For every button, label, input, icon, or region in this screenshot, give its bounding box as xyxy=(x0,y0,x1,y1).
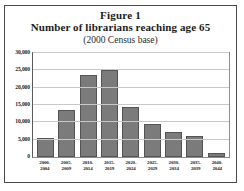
gridline xyxy=(33,87,229,88)
y-axis-tick-label: 20,000 xyxy=(15,84,30,90)
x-axis-tick-label: 2015-2019 xyxy=(99,160,119,182)
x-axis-tick-label: 2000-2004 xyxy=(35,160,55,182)
y-axis-tick-label: 25,000 xyxy=(15,66,30,72)
bar xyxy=(37,138,54,157)
x-axis: 2000-20042005-20092010-20142015-20192020… xyxy=(32,160,230,182)
gridline xyxy=(33,52,229,53)
x-axis-tick-line: 2039 xyxy=(186,166,206,172)
bar xyxy=(165,132,182,157)
x-axis-tick-label: 2020-2024 xyxy=(121,160,141,182)
x-axis-tick-label: 2040-2044 xyxy=(207,160,227,182)
y-axis-tick-label: 0 xyxy=(27,153,30,159)
gridline xyxy=(33,104,229,105)
x-axis-tick-label: 2030-2034 xyxy=(164,160,184,182)
plot-area xyxy=(32,52,230,158)
gridline xyxy=(33,69,229,70)
figure-frame: Figure 1 Number of librarians reaching a… xyxy=(4,5,237,183)
y-axis-tick-label: 15,000 xyxy=(15,101,30,107)
x-axis-tick-label: 2025-2029 xyxy=(143,160,163,182)
gridline xyxy=(33,139,229,140)
y-axis: 05,00010,00015,00020,00025,00030,000 xyxy=(5,52,31,158)
gridline xyxy=(33,121,229,122)
x-axis-tick-label: 2005-2009 xyxy=(56,160,76,182)
bar xyxy=(144,124,161,157)
y-axis-tick-label: 30,000 xyxy=(15,49,30,55)
x-axis-tick-line: 2014 xyxy=(78,166,98,172)
x-axis-tick-line: 2024 xyxy=(121,166,141,172)
x-axis-tick-line: 2009 xyxy=(56,166,76,172)
x-axis-tick-line: 2034 xyxy=(164,166,184,172)
x-axis-tick-label: 2035-2039 xyxy=(186,160,206,182)
figure-title: Number of librarians reaching age 65 xyxy=(5,21,236,34)
bar-chart: 05,00010,00015,00020,00025,00030,000 200… xyxy=(5,52,238,183)
x-axis-tick-line: 2019 xyxy=(99,166,119,172)
y-axis-tick-label: 5,000 xyxy=(18,136,30,142)
y-axis-tick-label: 10,000 xyxy=(15,118,30,124)
x-axis-tick-label: 2010-2014 xyxy=(78,160,98,182)
x-axis-tick-line: 2004 xyxy=(35,166,55,172)
x-axis-tick-line: 2044 xyxy=(207,166,227,172)
figure-number: Figure 1 xyxy=(5,9,236,21)
figure-title-block: Figure 1 Number of librarians reaching a… xyxy=(5,6,236,46)
bar xyxy=(208,153,225,157)
figure-subtitle: (2000 Census base) xyxy=(5,34,236,46)
bar xyxy=(122,107,139,157)
bar xyxy=(58,110,75,157)
bar xyxy=(101,70,118,157)
x-axis-tick-line: 2029 xyxy=(143,166,163,172)
